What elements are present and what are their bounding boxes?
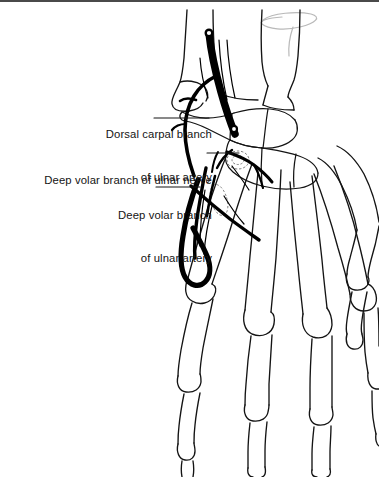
ulnar-artery-trunk [209, 33, 235, 134]
anatomical-figure: Dorsal carpal branch of ulnar artery Dee… [0, 0, 379, 477]
label-deep-volar-branch-ulnar-artery: Deep volar branch of ulnar artery [48, 180, 212, 294]
label-line-1: Dorsal carpal branch [62, 127, 212, 141]
label-line-2: of ulnar artery [48, 251, 212, 265]
forearm-bones [172, 10, 300, 111]
label-line-1: Deep volar branch [48, 208, 212, 222]
grey-scribble-mark [261, 13, 316, 56]
